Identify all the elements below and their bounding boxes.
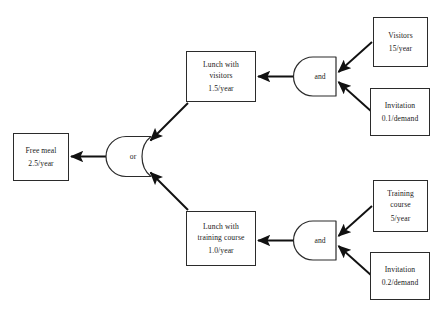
node-training-course-label-line1: Training: [387, 188, 414, 199]
node-training-course[interactable]: Training course 5/year: [373, 180, 428, 232]
node-free-meal[interactable]: Free meal 2.5/year: [13, 133, 69, 181]
node-invitation-training[interactable]: Invitation 0.2/demand: [370, 252, 430, 300]
node-free-meal-rate: 2.5/year: [28, 158, 53, 169]
node-lunch-with-training-course-label-line2: training course: [198, 232, 245, 243]
node-invitation-visitors-rate: 0.1/demand: [382, 113, 419, 124]
edge-visitors-to-and-gate: [339, 42, 373, 72]
edge-invitation-visitors-to-and-gate: [339, 82, 373, 112]
node-invitation-training-label: Invitation: [385, 264, 416, 275]
edge-training-course-to-and-gate: [339, 206, 373, 236]
node-invitation-visitors[interactable]: Invitation 0.1/demand: [370, 88, 430, 136]
node-visitors[interactable]: Visitors 15/year: [373, 17, 428, 67]
edge-lunch-visitors-to-or-gate: [151, 103, 189, 141]
node-free-meal-label: Free meal: [25, 145, 56, 156]
node-lunch-with-training-course[interactable]: Lunch with training course 1.0/year: [186, 211, 256, 266]
and-gate-visitors-shape: [294, 57, 336, 96]
fault-tree-diagram: Free meal 2.5/year Lunch with visitors 1…: [0, 0, 441, 318]
and-gate-training-shape: [294, 221, 336, 260]
node-lunch-with-visitors-label-line2: visitors: [209, 70, 232, 81]
edge-invitation-training-to-and-gate: [339, 246, 373, 276]
node-lunch-with-training-course-rate: 1.0/year: [208, 245, 233, 256]
edge-lunch-training-to-or-gate: [151, 173, 189, 211]
node-visitors-rate: 15/year: [389, 43, 412, 54]
node-training-course-label-line2: course: [390, 199, 410, 210]
node-lunch-with-visitors-label-line1: Lunch with: [203, 59, 239, 70]
node-invitation-training-rate: 0.2/demand: [382, 277, 419, 288]
node-invitation-visitors-label: Invitation: [385, 100, 416, 111]
node-lunch-with-visitors[interactable]: Lunch with visitors 1.5/year: [186, 51, 256, 102]
node-training-course-rate: 5/year: [391, 213, 411, 224]
or-gate-shape: [106, 137, 151, 177]
node-visitors-label: Visitors: [388, 30, 412, 41]
node-lunch-with-visitors-rate: 1.5/year: [208, 83, 233, 94]
node-lunch-with-training-course-label-line1: Lunch with: [203, 221, 239, 232]
